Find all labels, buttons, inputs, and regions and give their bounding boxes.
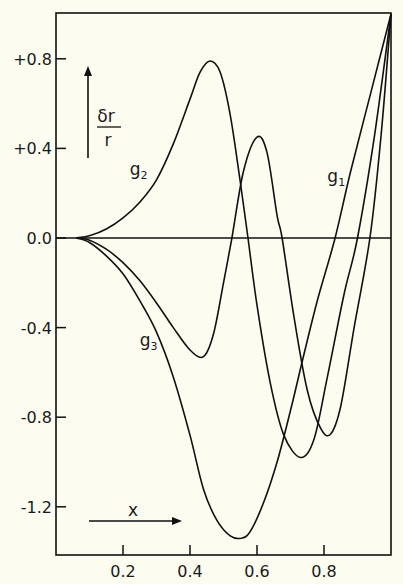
label-g3: g3 — [140, 330, 158, 353]
x-tick-label: 0.8 — [311, 562, 336, 581]
curves — [76, 14, 391, 539]
y-arrow-icon — [84, 66, 92, 76]
ylabel-numerator: δr — [97, 106, 114, 126]
axis-annotations: δr r x — [84, 66, 182, 525]
curve-labels: g1g2g3 — [130, 159, 345, 352]
axis-ticks: +0.8+0.40.0-0.4-0.8-1.20.20.40.60.8 — [13, 50, 337, 581]
x-tick-label: 0.4 — [177, 562, 202, 581]
x-tick-label: 0.2 — [110, 562, 135, 581]
curve-g1 — [76, 14, 391, 539]
y-tick-label: 0.0 — [27, 229, 52, 248]
y-tick-label: +0.4 — [13, 139, 52, 158]
curve-g3 — [76, 14, 391, 436]
y-tick-label: -0.4 — [21, 319, 52, 338]
y-tick-label: -1.2 — [21, 498, 52, 517]
y-tick-label: +0.8 — [13, 50, 52, 69]
x-arrow-icon — [172, 517, 182, 525]
label-g2: g2 — [130, 159, 148, 182]
chart-canvas: +0.8+0.40.0-0.4-0.8-1.20.20.40.60.8 g1g2… — [0, 0, 403, 584]
ylabel-denominator: r — [105, 130, 112, 150]
y-tick-label: -0.8 — [21, 408, 52, 427]
xlabel: x — [128, 500, 138, 520]
label-g1: g1 — [327, 166, 345, 189]
x-tick-label: 0.6 — [244, 562, 269, 581]
